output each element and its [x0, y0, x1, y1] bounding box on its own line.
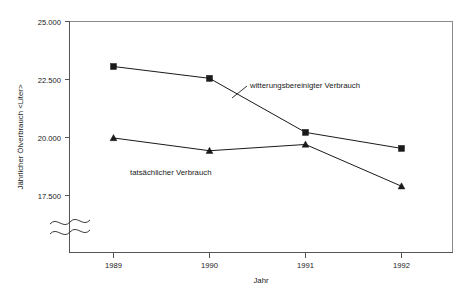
- chart-figure: 25.000 22.500 20.000 17.500 Jährlicher Ö…: [0, 0, 467, 299]
- series-line-1: [114, 67, 402, 149]
- series-annotation-tatsaechlich: tatsächlicher Verbrauch: [130, 168, 211, 177]
- data-point-1-1991: [303, 129, 309, 135]
- data-point-1-1992: [399, 145, 405, 151]
- oil-consumption-line-chart: 25.000 22.500 20.000 17.500 Jährlicher Ö…: [0, 0, 467, 299]
- x-tick-label-1990: 1990: [201, 261, 218, 270]
- x-tick-label-1989: 1989: [105, 261, 122, 270]
- series-annotation-witterungsbereinigt: witterungsbereinigter Verbrauch: [249, 81, 360, 90]
- y-tick-label-17500: 17.500: [38, 192, 61, 201]
- data-point-2-1989: [110, 135, 117, 141]
- x-axis: [70, 253, 453, 258]
- series-line-2: [114, 138, 402, 186]
- y-axis-title: Jährlicher Ölverbrauch <Liter>: [16, 84, 25, 189]
- x-axis-title: Jahr: [253, 276, 269, 285]
- y-axis: [65, 22, 70, 253]
- x-tick-label-1992: 1992: [393, 261, 410, 270]
- data-point-1-1990: [207, 75, 213, 81]
- plot-frame: [70, 22, 453, 253]
- y-tick-label-20000: 20.000: [38, 134, 61, 143]
- y-tick-label-25000: 25.000: [38, 18, 61, 27]
- data-point-2-1992: [398, 183, 405, 189]
- data-point-1-1989: [111, 64, 117, 70]
- y-tick-label-22500: 22.500: [38, 76, 61, 85]
- x-tick-label-1991: 1991: [297, 261, 314, 270]
